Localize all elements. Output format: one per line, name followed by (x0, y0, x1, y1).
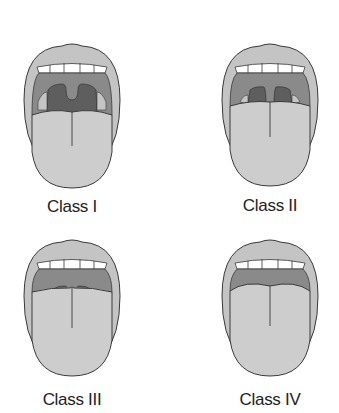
label-class-1: Class I (0, 197, 152, 217)
panel-class-4: Class IV (190, 236, 339, 413)
label-class-3: Class III (0, 390, 152, 410)
mouth-class-3-icon (0, 236, 152, 396)
panel-class-2: Class II (190, 40, 339, 240)
mouth-class-4-icon (190, 236, 339, 396)
mouth-class-1-icon (0, 40, 152, 200)
mouth-class-2-icon (190, 40, 339, 200)
label-class-4: Class IV (190, 390, 339, 410)
panel-class-1: Class I (0, 40, 152, 240)
label-class-2: Class II (190, 196, 339, 216)
panel-class-3: Class III (0, 236, 152, 413)
